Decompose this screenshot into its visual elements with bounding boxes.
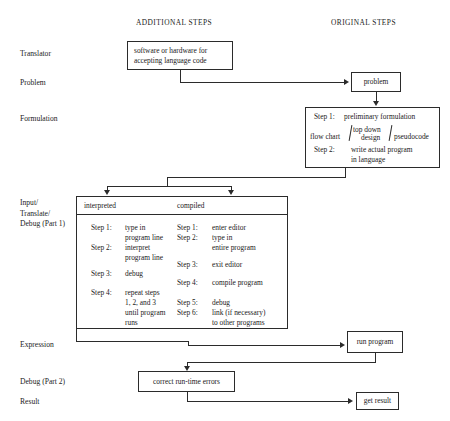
formulation-separator-left	[349, 125, 353, 141]
box-steps-matrix: interpreted compiled Step 1: type in pro…	[76, 196, 288, 329]
formulation-separator-right	[389, 125, 393, 141]
connector-matrix-bottom-run	[76, 341, 188, 342]
compiled-step-1-label: Step 1:	[177, 223, 198, 232]
row-label-formulation: Formulation	[20, 114, 58, 125]
connector-to-run-program	[188, 345, 341, 346]
row-label-input-line3: Debug (Part 1)	[20, 219, 65, 230]
matrix-header-divider	[77, 214, 287, 215]
interpreted-step-2-line1: interpret	[125, 243, 150, 252]
connector-run-to-correct	[187, 362, 376, 363]
compiled-step-3-label: Step 3:	[177, 260, 198, 269]
arrowhead-into-interpreted	[104, 190, 110, 195]
interpreted-step-4-label: Step 4:	[91, 288, 112, 297]
box-problem: problem	[351, 72, 401, 92]
interpreted-step-4-line4: runs	[125, 318, 138, 327]
interpreted-step-4-line1: repeat steps	[125, 288, 160, 297]
compiled-step-5-line1: debug	[212, 298, 230, 307]
connector-translator-down	[180, 70, 181, 82]
arrowhead-into-problem	[344, 79, 349, 85]
formulation-method-flow-chart: flow chart	[310, 132, 340, 142]
formulation-step1-text: preliminary formulation	[344, 112, 415, 122]
box-run-program-label: run program	[357, 337, 394, 347]
formulation-step2-label: Step 2:	[314, 145, 335, 155]
box-correct-runtime-errors-label: correct run-time errors	[153, 377, 220, 387]
box-translator-line2: accepting language code	[134, 56, 207, 66]
row-label-result: Result	[20, 397, 39, 408]
interpreted-step-1-line2: program line	[125, 233, 163, 242]
interpreted-step-4-line2: 1, 2, and 3	[125, 298, 156, 307]
formulation-step1-label: Step 1:	[314, 112, 335, 122]
connector-correct-down	[187, 392, 188, 401]
row-label-problem: Problem	[20, 78, 46, 89]
row-label-debug-part-2: Debug (Part 2)	[20, 377, 65, 388]
compiled-step-2-line2: entire program	[212, 243, 256, 252]
connector-formulation-left	[167, 177, 346, 178]
arrowhead-into-run-program	[340, 342, 345, 348]
box-translator-line1: software or hardware for	[134, 46, 207, 56]
connector-split-bar	[107, 186, 232, 187]
interpreted-step-3-label: Step 3:	[91, 269, 112, 278]
row-label-input-translate-debug: Input/ Translate/ Debug (Part 1)	[20, 198, 65, 230]
connector-formulation-down	[345, 168, 346, 177]
row-label-expression: Expression	[20, 340, 54, 351]
interpreted-step-3-line1: debug	[125, 269, 143, 278]
row-label-translator: Translator	[20, 49, 51, 60]
arrowhead-into-compiled	[228, 190, 234, 195]
arrowhead-into-get-result	[348, 398, 353, 404]
arrowhead-into-formulation	[373, 101, 379, 106]
connector-correct-to-result	[187, 401, 349, 402]
box-formulation: Step 1: preliminary formulation flow cha…	[305, 107, 440, 168]
compiled-step-2-label: Step 2:	[177, 233, 198, 242]
box-translator: software or hardware for accepting langu…	[127, 41, 233, 70]
formulation-method-pseudocode: pseudocode	[394, 132, 429, 142]
connector-split-down	[167, 177, 168, 186]
box-get-result: get result	[356, 392, 399, 410]
compiled-step-2-line1: type in	[212, 233, 232, 242]
connector-translator-to-problem	[180, 82, 345, 83]
row-label-input-line2: Translate/	[20, 209, 65, 220]
connector-matrix-down-left	[76, 329, 77, 341]
column-header-original-steps: ORIGINAL STEPS	[331, 18, 396, 27]
compiled-step-4-line1: compile program	[212, 278, 263, 287]
interpreted-step-2-label: Step 2:	[91, 243, 112, 252]
compiled-step-6-line1: link (if necessary)	[212, 308, 265, 317]
interpreted-step-1-line1: type in	[125, 223, 145, 232]
compiled-step-6-line2: to other programs	[212, 318, 265, 327]
box-problem-label: problem	[364, 77, 389, 87]
compiled-step-4-label: Step 4:	[177, 278, 198, 287]
box-run-program: run program	[347, 331, 403, 353]
box-correct-runtime-errors: correct run-time errors	[138, 371, 235, 392]
formulation-step2-line1: write actual program	[351, 145, 413, 155]
row-label-input-line1: Input/	[20, 198, 65, 209]
compiled-step-5-label: Step 5:	[177, 298, 198, 307]
compiled-step-3-line1: exit editor	[212, 260, 242, 269]
interpreted-step-4-line3: until program	[125, 308, 165, 317]
interpreted-step-2-line2: program line	[125, 253, 163, 262]
box-get-result-label: get result	[364, 396, 391, 406]
compiled-step-1-line1: enter editor	[212, 223, 246, 232]
connector-run-down	[375, 353, 376, 362]
formulation-method-design: design	[361, 133, 380, 143]
matrix-header-compiled: compiled	[177, 201, 205, 211]
flowchart-diagram: ADDITIONAL STEPS ORIGINAL STEPS Translat…	[0, 0, 450, 421]
interpreted-step-1-label: Step 1:	[91, 223, 112, 232]
compiled-step-6-label: Step 6:	[177, 308, 198, 317]
matrix-header-interpreted: interpreted	[84, 201, 116, 211]
formulation-step2-line2: in language	[351, 155, 385, 165]
column-header-additional-steps: ADDITIONAL STEPS	[136, 18, 212, 27]
